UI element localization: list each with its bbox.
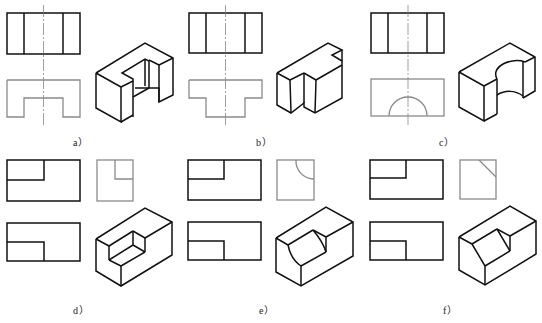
panel-f-label: f）	[443, 302, 458, 317]
panel-c-isometric-view	[459, 43, 535, 121]
panel-c-top-view	[371, 79, 444, 116]
panel-e-front-view	[188, 160, 261, 200]
panel-b-isometric-view	[277, 43, 342, 113]
panel-d-front-view	[7, 160, 80, 201]
panel-b-label: b）	[256, 134, 273, 149]
panel-c	[371, 5, 535, 127]
panel-a	[7, 5, 173, 127]
panel-f-isometric-view	[459, 206, 536, 285]
panel-e-top-view	[188, 222, 261, 260]
panel-c-front-view	[371, 13, 444, 53]
panel-e-isometric-view	[276, 207, 353, 286]
panel-e-label: e）	[259, 302, 275, 317]
panel-f-side-view	[460, 160, 496, 199]
panel-b	[189, 5, 342, 127]
panel-d-side-view	[97, 160, 133, 201]
panel-d-top-view	[7, 223, 80, 261]
panel-f-front-view	[370, 160, 443, 199]
panel-f-top-view	[370, 222, 443, 260]
panel-d	[7, 160, 172, 286]
panel-c-label: c）	[439, 134, 455, 149]
panel-e-side-view	[277, 160, 314, 200]
orthographic-projection-figure	[0, 0, 542, 323]
panel-f	[370, 160, 536, 285]
panel-d-label: d）	[73, 302, 90, 317]
panel-a-isometric-view	[96, 43, 173, 122]
panel-a-label: a）	[73, 134, 89, 149]
panel-e	[188, 160, 353, 286]
panel-d-isometric-view	[96, 208, 172, 286]
